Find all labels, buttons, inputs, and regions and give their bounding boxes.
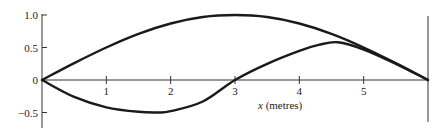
x-tick-label: 5 xyxy=(361,85,367,97)
x-axis-unit: (metres) xyxy=(263,99,303,112)
x-tick-label: 3 xyxy=(232,85,238,97)
x-tick-label: 1 xyxy=(104,85,110,97)
x-axis-title: x (metres) xyxy=(257,99,303,112)
upper-curve-line xyxy=(42,15,428,80)
y-ticks: 1.00.50−0.5 xyxy=(18,9,47,119)
y-tick-label: −0.5 xyxy=(18,107,38,119)
chart: 1.00.50−0.5 12345 x (metres) xyxy=(0,0,445,133)
x-tick-label: 2 xyxy=(168,85,174,97)
series xyxy=(42,15,428,113)
y-tick-label: 0 xyxy=(33,74,39,86)
x-tick-label: 4 xyxy=(297,85,303,97)
y-tick-label: 0.5 xyxy=(24,42,38,54)
y-tick-label: 1.0 xyxy=(24,9,38,21)
